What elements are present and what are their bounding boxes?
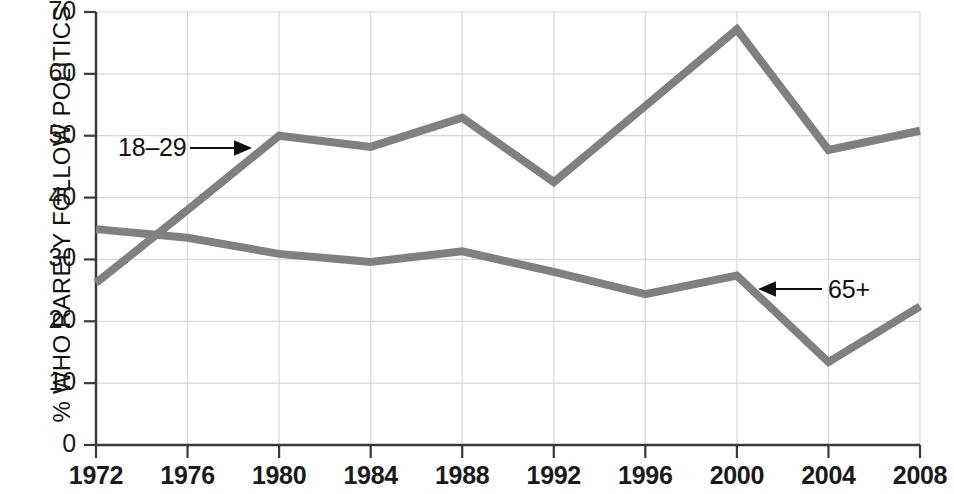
x-gridlines [188, 12, 920, 445]
y-tick-label: 60 [16, 58, 76, 87]
series-line-65+ [96, 229, 920, 362]
chart-plot-area [0, 0, 954, 494]
y-tick-label: 0 [16, 429, 76, 458]
axis-ticks [84, 12, 920, 458]
y-tick-label: 50 [16, 120, 76, 149]
y-tick-label: 10 [16, 367, 76, 396]
x-tick-label: 2008 [865, 461, 954, 490]
y-tick-label: 20 [16, 305, 76, 334]
series-lines [96, 29, 920, 362]
y-tick-label: 70 [16, 0, 76, 25]
line-chart: % WHO RARELY FOLLOW POLITICS 70605040302… [0, 0, 954, 494]
y-tick-label: 30 [16, 243, 76, 272]
series-annotation-18-29: 18–29 [118, 133, 187, 162]
series-annotation-65-plus: 65+ [828, 275, 870, 304]
annotation-arrows [190, 148, 822, 289]
y-tick-label: 40 [16, 182, 76, 211]
